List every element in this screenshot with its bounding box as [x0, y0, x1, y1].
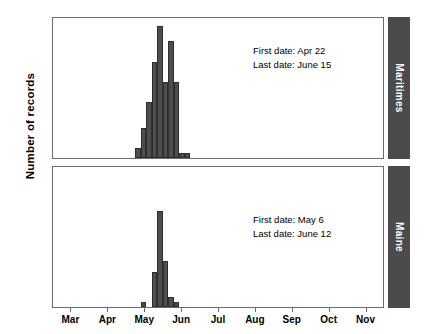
last-date-maritimes: Last date: June 15: [253, 58, 331, 72]
x-tick-label: Nov: [356, 314, 375, 325]
bar: [174, 302, 179, 307]
figure: Number of records 510152025 First date: …: [0, 0, 434, 334]
bar: [146, 102, 151, 158]
plot-area-maine: 510152025: [53, 167, 383, 307]
x-tick-mark: [218, 308, 219, 312]
x-tick-label: May: [134, 314, 153, 325]
bar: [168, 41, 173, 158]
x-tick-label: Jul: [211, 314, 225, 325]
panel-maritimes: 510152025 First date: Apr 22 Last date: …: [52, 17, 384, 159]
x-tick-mark: [329, 308, 330, 312]
strip-text-maine: Maine: [394, 222, 405, 252]
x-tick-label: Apr: [99, 314, 116, 325]
x-tick-label: Aug: [245, 314, 264, 325]
last-date-maine: Last date: June 12: [253, 227, 331, 241]
strip-text-maritimes: Maritimes: [394, 63, 405, 112]
plot-area-maritimes: 510152025: [53, 18, 383, 158]
bar: [163, 261, 168, 307]
bar: [141, 128, 146, 158]
bar: [168, 297, 173, 307]
bar: [135, 148, 140, 158]
x-tick-label: Oct: [320, 314, 337, 325]
x-tick-mark: [144, 308, 145, 312]
bar: [157, 211, 162, 307]
x-tick-label: Sep: [283, 314, 301, 325]
x-tick-label: Mar: [62, 314, 80, 325]
x-axis: MarAprMayJunJulAugSepOctNov: [52, 308, 384, 334]
bar: [174, 82, 179, 158]
strip-label-maine: Maine: [388, 166, 410, 308]
strip-label-maritimes: Maritimes: [388, 17, 410, 159]
bar: [152, 272, 157, 308]
annotation-maritimes: First date: Apr 22 Last date: June 15: [253, 44, 331, 72]
bar: [163, 82, 168, 158]
y-axis-title: Number of records: [24, 36, 36, 216]
bar: [152, 62, 157, 158]
x-tick-mark: [292, 308, 293, 312]
bar: [179, 153, 184, 158]
first-date-maine: First date: May 6: [253, 213, 331, 227]
panel-maine: 510152025 First date: May 6 Last date: J…: [52, 166, 384, 308]
first-date-maritimes: First date: Apr 22: [253, 44, 331, 58]
x-tick-mark: [255, 308, 256, 312]
bar: [185, 153, 190, 158]
x-tick-mark: [181, 308, 182, 312]
x-tick-label: Jun: [172, 314, 190, 325]
x-tick-mark: [366, 308, 367, 312]
bar: [157, 26, 162, 158]
x-tick-mark: [70, 308, 71, 312]
annotation-maine: First date: May 6 Last date: June 12: [253, 213, 331, 241]
bar: [141, 302, 146, 307]
x-tick-mark: [107, 308, 108, 312]
